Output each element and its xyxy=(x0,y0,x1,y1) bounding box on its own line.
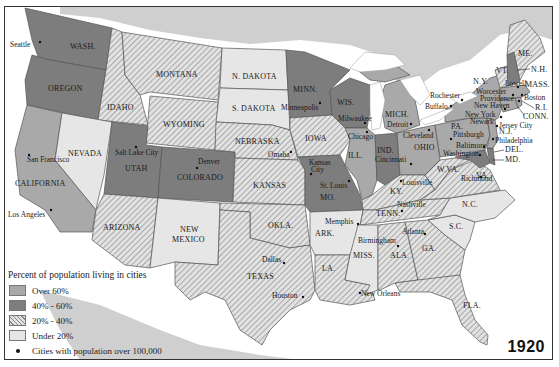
city-dot-pittsburgh xyxy=(450,138,452,140)
label-colorado: COLORADO xyxy=(177,173,223,182)
legend-label-20-40: 20% - 40% xyxy=(32,316,73,326)
label-n-dakota: N. DAKOTA xyxy=(232,72,277,81)
label-la: LA. xyxy=(322,264,335,273)
city-cincinnati: Cincinnati xyxy=(375,155,406,164)
city-louisville: Louisville xyxy=(402,178,433,187)
city-omaha: Omaha xyxy=(268,150,290,159)
label-ark: ARK. xyxy=(315,229,335,238)
city-dot-cincinnati xyxy=(410,163,412,165)
label-tenn: TENN. xyxy=(376,209,400,218)
city-seattle: Seattle xyxy=(10,40,31,49)
city-dot-newark xyxy=(496,125,498,127)
city-houston: Houston xyxy=(272,291,298,300)
city-dot-rochester xyxy=(461,99,463,101)
legend-title: Percent of population living in cities xyxy=(8,270,196,280)
city-los-angeles: Los Angeles xyxy=(8,210,45,219)
city-dot-minneapolis xyxy=(319,102,321,104)
city-dot-new-york xyxy=(500,116,502,118)
legend-item-over-60: Over 60% xyxy=(6,283,196,298)
label-nevada: NEVADA xyxy=(68,149,102,158)
legend-label-40-60: 40% - 60% xyxy=(32,301,73,311)
city-birmingham: Birmingham xyxy=(358,236,396,245)
city-dot-birmingham xyxy=(397,245,399,247)
label-california: CALIFORNIA xyxy=(15,179,65,188)
legend-swatch-40-60 xyxy=(9,300,26,311)
city-minneapolis: Minneapolis xyxy=(281,103,319,112)
label-wyoming: WYOMING xyxy=(163,120,205,129)
city-salt-lake-city: Salt Lake City xyxy=(115,148,159,157)
label-montana: MONTANA xyxy=(156,70,198,79)
city-marker-icon xyxy=(16,349,20,353)
label-ohio: OHIO xyxy=(414,143,435,152)
label-del: DEL. xyxy=(505,145,523,154)
label-ky: KY. xyxy=(390,187,403,196)
label-new-mexico-2: MEXICO xyxy=(172,235,205,244)
label-ill: ILL. xyxy=(348,151,363,160)
city-dot-washington xyxy=(479,154,481,156)
city-dot-detroit xyxy=(410,123,412,125)
label-ala: ALA. xyxy=(390,251,409,260)
label-ga: GA. xyxy=(422,244,436,253)
city-dot-houston xyxy=(302,296,304,298)
city-kansas-city-2: City xyxy=(311,165,324,174)
city-lowell: Lowell xyxy=(505,79,526,88)
city-dot-buffalo xyxy=(450,105,452,107)
legend-label-under-20: Under 20% xyxy=(32,331,73,341)
city-atlanta: Atlanta xyxy=(402,227,425,236)
city-memphis: Memphis xyxy=(325,217,353,226)
city-dot-omaha xyxy=(290,151,292,153)
city-buffalo: Buffalo xyxy=(425,102,448,111)
legend-item-cities: Cities with population over 100,000 xyxy=(6,343,196,358)
city-dot-dallas xyxy=(283,262,285,264)
city-jersey-city: Jersey City xyxy=(499,121,533,130)
label-ri: R.I. xyxy=(535,103,548,112)
city-boston: Boston xyxy=(524,93,546,102)
label-utah: UTAH xyxy=(125,164,147,173)
label-nh: N.H. xyxy=(531,65,547,74)
city-dallas: Dallas xyxy=(262,255,281,264)
label-kansas: KANSAS xyxy=(253,181,286,190)
city-dot-boston xyxy=(521,94,523,96)
label-mich: MICH. xyxy=(385,110,409,119)
city-pittsburgh: Pittsburgh xyxy=(453,130,484,139)
city-nashville: Nashville xyxy=(397,200,426,209)
legend-swatch-20-40 xyxy=(9,315,26,326)
legend-swatch-over-60 xyxy=(9,285,26,296)
city-dot-denver xyxy=(196,167,198,169)
label-md: MD. xyxy=(505,155,521,164)
legend-item-40-60: 40% - 60% xyxy=(6,298,196,313)
label-wva: W.VA. xyxy=(437,165,459,174)
state-n-dakota xyxy=(220,48,288,90)
city-new-orleans: New Orleans xyxy=(361,289,400,298)
label-me: ME. xyxy=(518,49,533,58)
label-minn: MINN. xyxy=(293,85,317,94)
label-oregon: OREGON xyxy=(48,84,83,93)
city-worcester: Worcester xyxy=(476,87,507,96)
city-philadelphia: Philadelphia xyxy=(495,136,533,145)
city-new-york: New York xyxy=(465,110,496,119)
label-ind: IND. xyxy=(377,146,394,155)
label-wash: WASH. xyxy=(70,42,96,51)
city-dot-los-angeles xyxy=(50,209,52,211)
city-dot-memphis xyxy=(357,223,359,225)
map-year: 1920 xyxy=(507,338,545,356)
label-iowa: IOWA xyxy=(305,134,327,143)
label-s-dakota: S. DAKOTA xyxy=(232,104,275,113)
city-washington: Washington xyxy=(443,149,479,158)
label-mass: MASS. xyxy=(525,80,550,89)
city-dot-providence xyxy=(518,100,520,102)
label-idaho: IDAHO xyxy=(107,103,134,112)
city-cleveland: Cleveland xyxy=(403,131,434,140)
city-san-francisco: San Francisco xyxy=(27,155,70,164)
city-dot-atlanta xyxy=(424,233,426,235)
label-nc: N.C. xyxy=(462,200,478,209)
label-ny: N.Y. xyxy=(473,77,488,86)
label-new-mexico-1: NEW xyxy=(180,225,199,234)
legend-item-under-20: Under 20% xyxy=(6,328,196,343)
city-dot-st-louis xyxy=(348,180,350,182)
city-dot-seattle xyxy=(39,41,41,43)
legend-label-over-60: Over 60% xyxy=(32,286,69,296)
label-conn: CONN. xyxy=(523,112,549,121)
city-dot-philadelphia xyxy=(492,138,494,140)
legend-swatch-under-20 xyxy=(9,330,26,341)
